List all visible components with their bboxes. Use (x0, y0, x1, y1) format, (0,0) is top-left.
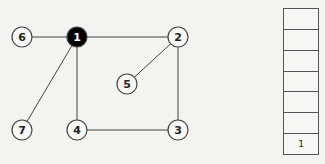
stack-cell (284, 91, 318, 112)
stack-cell (284, 50, 318, 71)
stack-cell (284, 29, 318, 50)
stack: 1 (283, 8, 319, 155)
node-1: 1 (67, 27, 87, 47)
node-2: 2 (168, 27, 188, 47)
graph-diagram: 1234567 (0, 0, 260, 164)
edge-1-7 (22, 37, 77, 130)
svg-text:5: 5 (123, 78, 131, 91)
node-5: 5 (117, 74, 137, 94)
svg-text:7: 7 (18, 124, 26, 137)
node-3: 3 (168, 120, 188, 140)
node-4: 4 (67, 120, 87, 140)
stack-cell (284, 71, 318, 92)
node-6: 6 (12, 27, 32, 47)
stack-cell (284, 112, 318, 133)
svg-text:4: 4 (73, 124, 81, 137)
stack-cell: 1 (284, 133, 318, 154)
graph-nodes: 1234567 (12, 27, 188, 140)
svg-text:1: 1 (73, 31, 81, 44)
svg-text:6: 6 (18, 31, 26, 44)
svg-text:2: 2 (174, 31, 182, 44)
node-7: 7 (12, 120, 32, 140)
stack-cell (284, 9, 318, 29)
svg-text:3: 3 (174, 124, 182, 137)
graph-edges (22, 37, 178, 130)
